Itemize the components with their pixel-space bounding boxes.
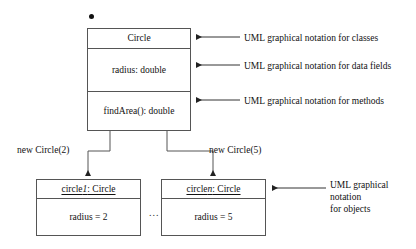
annotation-classes: UML graphical notation for classes bbox=[244, 32, 378, 44]
uml-diagram-canvas: Circle radius: double findArea(): double… bbox=[0, 0, 416, 249]
class-method-label: findArea(): double bbox=[104, 106, 175, 116]
class-name-compartment: Circle bbox=[88, 29, 190, 49]
instantiation-connector-left bbox=[88, 131, 110, 176]
annotation-data-fields: UML graphical notation for data fields bbox=[244, 60, 391, 72]
object-box-circlen: circlen: Circle radius = 5 bbox=[161, 179, 266, 236]
annotation-objects: UML graphical notation for objects bbox=[330, 179, 416, 215]
object-name-compartment: circle1: Circle bbox=[37, 180, 140, 199]
instantiation-label-left: new Circle(2) bbox=[17, 144, 70, 156]
object-name-suffix: : Circle bbox=[212, 184, 240, 194]
objects-ellipsis-separator: ... bbox=[149, 207, 160, 219]
object-box-circle1: circle1: Circle radius = 2 bbox=[36, 179, 141, 236]
object-name-compartment: circlen: Circle bbox=[162, 180, 265, 199]
annotation-objects-line1: UML graphical notation bbox=[330, 179, 416, 203]
class-box-circle: Circle radius: double findArea(): double bbox=[87, 28, 191, 131]
instantiation-label-right: new Circle(5) bbox=[209, 144, 262, 156]
class-fields-compartment: radius: double bbox=[88, 49, 190, 92]
class-name-label: Circle bbox=[127, 33, 150, 43]
class-field-label: radius: double bbox=[112, 65, 166, 75]
object-field-label: radius = 5 bbox=[194, 212, 232, 222]
object-name-prefix: circle bbox=[61, 184, 82, 194]
object-fields-compartment: radius = 2 bbox=[37, 199, 140, 236]
object-name-prefix: circle bbox=[186, 184, 207, 194]
object-name-label: circle1: Circle bbox=[61, 184, 115, 194]
annotation-objects-line2: for objects bbox=[330, 203, 416, 215]
object-name-suffix: : Circle bbox=[87, 184, 115, 194]
object-fields-compartment: radius = 5 bbox=[162, 199, 265, 236]
object-field-label: radius = 2 bbox=[69, 212, 107, 222]
class-methods-compartment: findArea(): double bbox=[88, 92, 190, 131]
instantiation-connector-right bbox=[167, 131, 213, 176]
annotation-methods: UML graphical notation for methods bbox=[244, 95, 384, 107]
bullet-dot-icon bbox=[89, 14, 94, 19]
object-name-label: circlen: Circle bbox=[186, 184, 240, 194]
